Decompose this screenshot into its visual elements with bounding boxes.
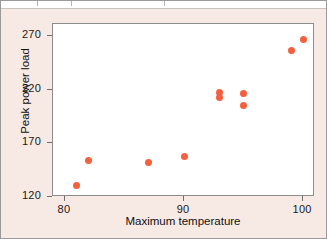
data-point bbox=[240, 90, 247, 97]
x-tick-mark bbox=[183, 196, 184, 201]
data-point bbox=[181, 153, 188, 160]
y-tick-mark bbox=[47, 89, 52, 90]
y-tick-label: 120 bbox=[7, 189, 41, 201]
y-tick-mark bbox=[47, 35, 52, 36]
x-tick-label: 100 bbox=[282, 203, 322, 215]
data-point bbox=[288, 47, 295, 54]
data-point bbox=[216, 94, 223, 101]
x-tick-label: 90 bbox=[163, 203, 203, 215]
x-tick-mark bbox=[64, 196, 65, 201]
x-tick-mark bbox=[302, 196, 303, 201]
y-tick-mark bbox=[47, 142, 52, 143]
plot-frame bbox=[52, 23, 314, 196]
scan-artifact bbox=[1, 1, 327, 9]
data-point bbox=[300, 36, 307, 43]
scatter-plot-figure: 120170220270 8090100 Maximum temperature… bbox=[0, 0, 327, 239]
y-tick-mark bbox=[47, 196, 52, 197]
data-point bbox=[73, 182, 80, 189]
data-point bbox=[85, 157, 92, 164]
y-axis-label: Peak power load bbox=[19, 21, 31, 161]
x-axis-label: Maximum temperature bbox=[52, 215, 314, 227]
plot-data-area bbox=[53, 24, 313, 195]
data-point bbox=[145, 159, 152, 166]
x-tick-label: 80 bbox=[44, 203, 84, 215]
data-point bbox=[240, 102, 247, 109]
